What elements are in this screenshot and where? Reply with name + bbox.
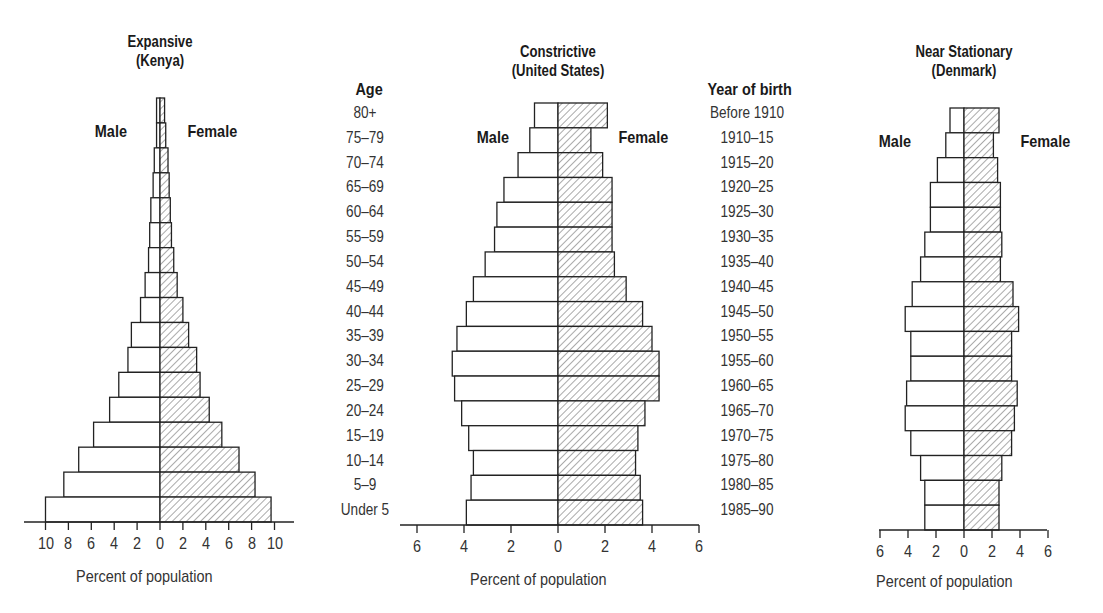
year-of-birth-label: 1985–90 <box>705 498 790 523</box>
male-bar <box>921 257 964 282</box>
female-bar <box>558 401 645 426</box>
female-bar <box>558 500 643 525</box>
male-bar <box>911 331 964 356</box>
male-bar <box>79 447 160 472</box>
age-label: 20–24 <box>331 399 399 424</box>
male-bar <box>925 505 964 530</box>
female-bar <box>160 347 197 372</box>
x-tick-label: 2 <box>923 542 949 562</box>
female-bar <box>964 158 998 183</box>
female-bar <box>964 505 999 530</box>
female-bar <box>558 351 659 376</box>
male-bar <box>455 376 558 401</box>
year-of-birth-label: 1910–15 <box>705 126 790 151</box>
female-bar <box>160 372 200 397</box>
x-tick-label: 4 <box>101 534 127 554</box>
female-bar <box>160 198 170 223</box>
x-tick-label: 2 <box>592 537 618 557</box>
denmark-bars <box>879 108 1048 538</box>
age-label: 15–19 <box>331 424 399 449</box>
male-bar <box>925 232 964 257</box>
age-label: 55–59 <box>331 225 399 250</box>
male-bar <box>905 307 964 332</box>
male-bar <box>471 475 558 500</box>
female-bar <box>558 277 626 302</box>
female-bar <box>160 497 271 522</box>
male-bar <box>466 302 558 327</box>
age-label: 40–44 <box>331 300 399 325</box>
male-bar <box>150 223 160 248</box>
male-bar <box>131 322 160 347</box>
female-bar <box>558 227 612 252</box>
female-bar <box>964 207 1000 232</box>
year-of-birth-label: 1920–25 <box>705 175 790 200</box>
age-label: 70–74 <box>331 151 399 176</box>
pyramids-svg <box>0 0 1103 613</box>
female-bar <box>964 456 1002 481</box>
male-bar <box>141 298 160 323</box>
x-tick-label: 6 <box>216 534 242 554</box>
male-bar <box>154 148 160 173</box>
male-bar <box>912 282 964 307</box>
female-bar <box>558 153 603 178</box>
age-label: 65–69 <box>331 175 399 200</box>
male-bar <box>64 472 160 497</box>
male-bar <box>473 277 558 302</box>
x-tick-label: 4 <box>451 537 477 557</box>
male-bar <box>473 451 558 476</box>
x-tick-label: 0 <box>147 534 173 554</box>
x-tick-label: 6 <box>686 537 712 557</box>
year-of-birth-label: 1955–60 <box>705 349 790 374</box>
female-bar <box>558 426 638 451</box>
kenya-bars <box>24 98 294 530</box>
male-bar <box>128 347 160 372</box>
male-bar <box>495 227 558 252</box>
female-bar <box>160 447 239 472</box>
male-bar <box>937 158 964 183</box>
male-bar <box>149 248 160 273</box>
x-tick-label: 4 <box>193 534 219 554</box>
x-tick-label: 10 <box>262 534 288 554</box>
female-bar <box>558 103 607 128</box>
year-of-birth-label: 1915–20 <box>705 151 790 176</box>
female-bar <box>558 302 643 327</box>
female-bar <box>160 123 166 148</box>
year-of-birth-label: 1950–55 <box>705 324 790 349</box>
female-bar <box>160 397 209 422</box>
age-label: 45–49 <box>331 275 399 300</box>
age-label: 75–79 <box>331 126 399 151</box>
year-of-birth-label: Before 1910 <box>705 101 790 126</box>
x-tick-label: 2 <box>124 534 150 554</box>
male-bar <box>504 177 558 202</box>
male-bar <box>153 173 160 198</box>
male-bar <box>907 381 964 406</box>
female-bar <box>160 223 171 248</box>
female-bar <box>558 376 659 401</box>
x-tick-label: 8 <box>239 534 265 554</box>
male-bar <box>485 252 558 277</box>
male-bar <box>151 198 160 223</box>
female-bar <box>558 177 612 202</box>
us-bars <box>400 103 699 533</box>
female-bar <box>160 148 168 173</box>
male-bar <box>911 356 964 381</box>
female-bar <box>558 326 652 351</box>
female-bar <box>964 257 1000 282</box>
age-label: Under 5 <box>331 498 399 523</box>
year-of-birth-label: 1940–45 <box>705 275 790 300</box>
female-bar <box>160 98 165 123</box>
female-bar <box>160 248 174 273</box>
x-tick-label: 6 <box>404 537 430 557</box>
female-bar <box>964 356 1012 381</box>
year-of-birth-label: 1975–80 <box>705 449 790 474</box>
male-bar <box>462 401 558 426</box>
female-bar <box>964 381 1017 406</box>
year-of-birth-label: 1930–35 <box>705 225 790 250</box>
year-of-birth-label: 1980–85 <box>705 473 790 498</box>
female-bar <box>558 252 614 277</box>
female-bar <box>558 451 636 476</box>
female-bar <box>160 322 189 347</box>
female-bar <box>964 480 999 505</box>
female-bar <box>160 173 169 198</box>
female-bar <box>964 331 1012 356</box>
